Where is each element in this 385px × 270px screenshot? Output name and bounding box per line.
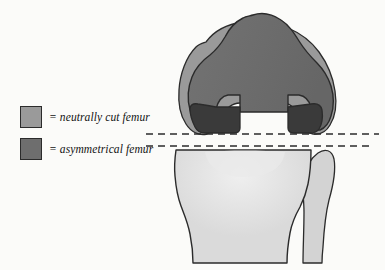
legend-label-asymmetrical-femur: = asymmetrical femur — [49, 143, 153, 155]
tibia-group — [175, 150, 335, 263]
condyle-medial — [190, 104, 240, 133]
legend-label-neutral-femur: = neutrally cut femur — [49, 111, 150, 123]
condyle-lateral — [288, 104, 322, 133]
legend-item-asymmetrical-femur: = asymmetrical femur — [20, 136, 170, 162]
legend-swatch-neutral-femur — [20, 106, 42, 128]
legend: = neutrally cut femur = asymmetrical fem… — [20, 104, 170, 168]
legend-swatch-asymmetrical-femur — [20, 138, 42, 160]
legend-item-neutral-femur: = neutrally cut femur — [20, 104, 170, 130]
